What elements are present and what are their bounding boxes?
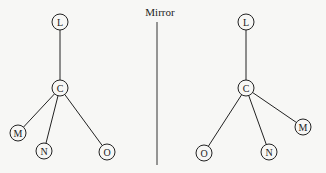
node-M: M <box>10 125 26 141</box>
node-N: N <box>36 143 52 159</box>
node-label: N <box>40 146 47 157</box>
node-L: L <box>52 14 68 30</box>
tree-original: LCMNO <box>10 14 115 160</box>
edge-C-N <box>249 96 267 145</box>
node-label: C <box>243 83 250 94</box>
mirror-diagram: Mirror LCMNOLCMNO <box>0 0 326 173</box>
node-M: M <box>295 119 311 135</box>
tree-mirror-image: LCMNO <box>196 14 311 161</box>
node-O: O <box>99 144 115 160</box>
mirror-label: Mirror <box>145 6 175 18</box>
node-label: M <box>14 128 23 139</box>
node-label: L <box>243 17 249 28</box>
edge-C-N <box>46 96 58 143</box>
node-label: N <box>265 147 272 158</box>
node-C: C <box>52 80 68 96</box>
node-label: L <box>57 17 63 28</box>
node-label: O <box>200 148 207 159</box>
node-label: C <box>57 83 64 94</box>
node-C: C <box>238 80 254 96</box>
edge-C-O <box>65 94 103 145</box>
diagram-svg: Mirror LCMNOLCMNO <box>0 0 326 173</box>
node-L: L <box>238 14 254 30</box>
trees: LCMNOLCMNO <box>10 14 311 161</box>
edge-C-O <box>208 95 241 147</box>
edge-C-M <box>23 94 54 127</box>
node-label: O <box>103 147 110 158</box>
node-N: N <box>261 144 277 160</box>
node-O: O <box>196 145 212 161</box>
node-label: M <box>299 122 308 133</box>
edge-C-M <box>253 93 297 123</box>
